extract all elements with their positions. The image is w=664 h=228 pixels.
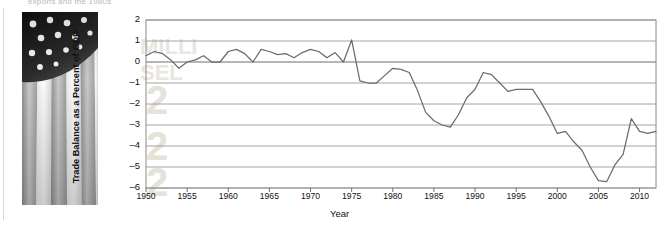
x-axis-tick: 1990: [455, 191, 495, 201]
y-axis-tick: –2: [120, 97, 140, 108]
y-axis-tick: –4: [120, 139, 140, 150]
x-axis-tick: 1965: [249, 191, 289, 201]
x-axis-tick: 2000: [537, 191, 577, 201]
x-axis-tick: 1960: [208, 191, 248, 201]
y-axis-tick: –5: [120, 160, 140, 171]
y-axis-tick: –3: [120, 118, 140, 129]
x-axis-tick: 1980: [373, 191, 413, 201]
x-axis-tick: 1995: [496, 191, 536, 201]
trade-balance-chart: MILLISEL 2 2 2 210–1–2–3–4–5–61950195519…: [0, 0, 664, 228]
x-axis-tick: 1970: [291, 191, 331, 201]
article-figure: exports and the 1980s AP Photo/Ben Margo…: [0, 0, 664, 228]
x-axis-tick: 1950: [126, 191, 166, 201]
x-axis-tick: 1975: [332, 191, 372, 201]
x-axis-tick: 1985: [414, 191, 454, 201]
x-axis-tick: 2005: [578, 191, 618, 201]
x-axis-tick: 2010: [620, 191, 660, 201]
y-axis-tick: –1: [120, 76, 140, 87]
y-axis-tick: 0: [120, 55, 140, 66]
y-axis-tick: 2: [120, 13, 140, 24]
x-axis-tick: 1955: [167, 191, 207, 201]
y-axis-tick: 1: [120, 34, 140, 45]
